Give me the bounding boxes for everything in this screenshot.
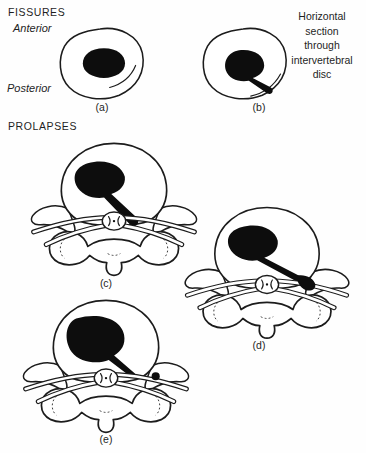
vertebral-arch — [41, 389, 170, 433]
figure-a-disc-circumferential-fissure — [54, 24, 150, 103]
diagram-page: FISSURES Anterior Posterior Horizontal s… — [0, 0, 366, 453]
vertebral-arch — [49, 232, 178, 276]
figure-b-disc-radial-fissure — [197, 24, 293, 103]
spinal-cord — [102, 212, 125, 230]
figure-a-caption: (a) — [82, 101, 122, 113]
figure-d-caption: (d) — [239, 339, 279, 351]
figure-d-vertebra-lateral-prolapse — [182, 202, 352, 341]
vertebral-arch — [203, 295, 331, 338]
figure-b-caption: (b) — [239, 101, 279, 113]
nucleus-shape — [83, 48, 125, 78]
figure-c-vertebra-posterolateral-prolapse — [28, 138, 200, 278]
figure-e-vertebra-sequestrated-fragment — [20, 295, 192, 435]
posterior-label: Posterior — [7, 82, 51, 94]
figure-e-caption: (e) — [86, 433, 126, 445]
anterior-label: Anterior — [13, 22, 52, 34]
spinal-cord — [94, 369, 117, 387]
prolapses-heading: PROLAPSES — [8, 120, 77, 132]
fissures-heading: FISSURES — [8, 6, 65, 18]
spinal-cord — [255, 276, 278, 294]
sequestrated-fragment — [152, 372, 160, 380]
figure-c-caption: (c) — [86, 277, 126, 289]
